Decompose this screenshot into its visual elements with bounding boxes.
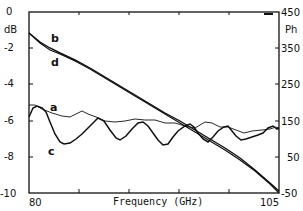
x-axis-title: Frequency (GHz) <box>113 196 203 207</box>
x-axis-ticks <box>79 12 229 193</box>
chart: 0 dB -2 -4 -6 -8 -10 450 Ph 350 250 150 … <box>0 0 303 211</box>
plot-frame <box>29 12 279 193</box>
label-c: c <box>48 145 55 158</box>
right-tick-50: 50 <box>287 152 300 163</box>
left-tick-labels: 0 dB -2 -4 -6 -8 -10 <box>0 6 17 199</box>
left-tick-8: -8 <box>4 151 14 162</box>
x-tick-105: 105 <box>260 197 279 208</box>
curve-d <box>29 33 279 193</box>
left-tick-6: -6 <box>4 115 14 126</box>
left-axis-unit: dB <box>4 24 17 35</box>
left-tick-0: 0 <box>6 6 12 17</box>
curve-a <box>29 105 279 133</box>
right-tick-neg50: -50 <box>281 188 297 199</box>
label-b: b <box>51 32 59 45</box>
right-axis-unit: Ph <box>285 24 297 35</box>
right-tick-150: 150 <box>281 116 300 127</box>
left-tick-2: -2 <box>4 42 14 53</box>
right-tick-350: 350 <box>281 43 300 54</box>
curve-c <box>29 106 279 145</box>
corner-mark <box>264 13 273 15</box>
right-tick-250: 250 <box>281 79 300 90</box>
left-tick-10: -10 <box>0 188 16 199</box>
right-tick-450: 450 <box>281 7 300 18</box>
label-a: a <box>50 101 57 114</box>
x-tick-80: 80 <box>29 197 42 208</box>
label-d: d <box>51 56 59 69</box>
right-tick-labels: 450 Ph 350 250 150 50 -50 <box>281 7 300 199</box>
left-tick-4: -4 <box>4 78 14 89</box>
